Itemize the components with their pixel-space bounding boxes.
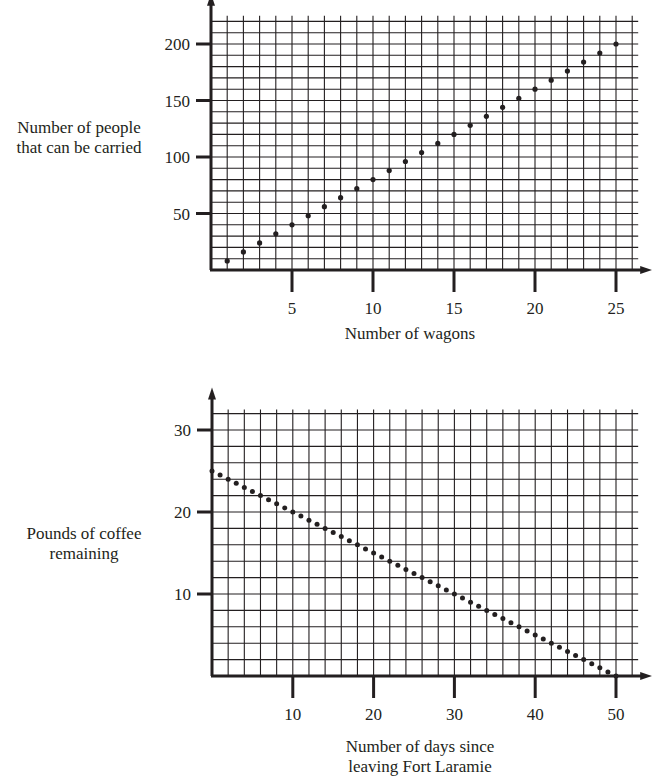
data-point: [387, 559, 392, 564]
coffee-days-chart: 1020304050102030: [0, 0, 652, 778]
data-point: [403, 567, 408, 572]
x-tick-label: 20: [365, 705, 382, 724]
data-point: [258, 493, 263, 498]
data-point: [363, 546, 368, 551]
data-point: [218, 473, 223, 478]
data-point: [460, 596, 465, 601]
data-point: [250, 489, 255, 494]
data-point: [565, 649, 570, 654]
data-point: [444, 587, 449, 592]
data-point: [589, 661, 594, 666]
data-point: [492, 612, 497, 617]
data-point: [500, 616, 505, 621]
x-tick-label: 30: [446, 705, 463, 724]
data-point: [420, 575, 425, 580]
data-point: [290, 510, 295, 515]
data-point: [395, 563, 400, 568]
data-point: [517, 624, 522, 629]
data-point: [428, 579, 433, 584]
data-point: [541, 637, 546, 642]
x-tick-label: 40: [527, 705, 544, 724]
chart2-grid: [212, 410, 638, 677]
data-point: [298, 514, 303, 519]
chart2-data-points: [210, 469, 619, 679]
data-point: [347, 538, 352, 543]
y-tick-label: 10: [174, 585, 191, 604]
data-point: [484, 608, 489, 613]
arrow-right-icon: [640, 672, 652, 680]
x-tick-label: 50: [608, 705, 625, 724]
data-point: [323, 526, 328, 531]
data-point: [533, 633, 538, 638]
data-point: [581, 657, 586, 662]
data-point: [210, 469, 215, 474]
data-point: [331, 530, 336, 535]
y-tick-label: 30: [174, 421, 191, 440]
data-point: [557, 645, 562, 650]
data-point: [234, 481, 239, 486]
x-tick-label: 10: [284, 705, 301, 724]
data-point: [412, 571, 417, 576]
data-point: [379, 555, 384, 560]
data-point: [371, 551, 376, 556]
data-point: [306, 518, 311, 523]
data-point: [508, 620, 513, 625]
data-point: [226, 477, 231, 482]
data-point: [605, 669, 610, 674]
data-point: [468, 600, 473, 605]
data-point: [597, 665, 602, 670]
data-point: [242, 485, 247, 490]
data-point: [436, 583, 441, 588]
data-point: [266, 497, 271, 502]
data-point: [525, 628, 530, 633]
data-point: [476, 604, 481, 609]
data-point: [355, 542, 360, 547]
data-point: [315, 522, 320, 527]
data-point: [339, 534, 344, 539]
y-tick-label: 20: [174, 503, 191, 522]
arrow-up-icon: [208, 388, 216, 400]
data-point: [549, 641, 554, 646]
data-point: [614, 674, 619, 679]
data-point: [452, 592, 457, 597]
data-point: [274, 501, 279, 506]
data-point: [573, 653, 578, 658]
data-point: [282, 505, 287, 510]
